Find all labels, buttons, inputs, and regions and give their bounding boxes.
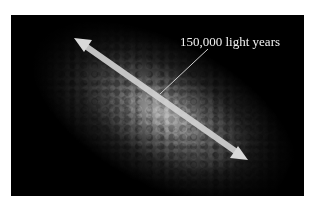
scale-arrow-overlay <box>0 0 310 204</box>
double-arrow-icon <box>74 38 248 160</box>
scale-label: 150,000 light years <box>180 34 280 50</box>
leader-line <box>160 49 208 94</box>
